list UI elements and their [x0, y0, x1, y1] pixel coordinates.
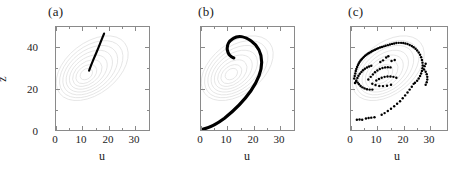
x-tick-minor-5: [214, 128, 215, 130]
x-tick-major-20: [109, 126, 110, 130]
panel-a-x-tick-label-20: 20: [103, 134, 114, 145]
x-tick-top-5: [69, 27, 70, 29]
y-tick-major-20: [201, 89, 205, 90]
y-tick-minor-30: [56, 68, 58, 69]
panel-c-tag: (c): [348, 5, 363, 18]
x-tick-major-0: [201, 126, 202, 130]
panel-a-x-tick-label-10: 10: [76, 134, 87, 145]
x-tick-top-15: [96, 27, 97, 29]
panel-a-plot-area: [55, 26, 150, 131]
panel-c-plot-area: [350, 26, 448, 131]
x-tick-major-0: [56, 126, 57, 130]
x-tick-top-5: [364, 27, 365, 29]
x-tick-top-0: [56, 27, 57, 31]
x-tick-minor-25: [267, 128, 268, 130]
x-tick-top-20: [404, 27, 405, 31]
panel-b-trajectory: [201, 27, 294, 130]
x-tick-major-30: [280, 126, 281, 130]
figure-three-panel-phase-plots: z 0 20 40 (a): [0, 0, 466, 178]
panel-c-x-tick-label-10: 10: [371, 134, 382, 145]
x-tick-minor-25: [122, 128, 123, 130]
y-tick-right-40: [145, 47, 149, 48]
panel-b-plot-area: [200, 26, 295, 131]
x-tick-top-10: [227, 27, 228, 31]
panel-c-x-tick-label-30: 30: [424, 134, 435, 145]
panel-a-x-tick-label-30: 30: [129, 134, 140, 145]
x-tick-top-20: [254, 27, 255, 31]
y-tick-right-30: [147, 68, 149, 69]
x-tick-top-20: [109, 27, 110, 31]
y-tick-major-40: [351, 47, 355, 48]
x-tick-major-30: [430, 126, 431, 130]
x-tick-top-10: [82, 27, 83, 31]
panel-c-x-axis-title: u: [394, 150, 400, 162]
x-tick-top-25: [417, 27, 418, 29]
x-tick-top-10: [377, 27, 378, 31]
x-tick-major-0: [351, 126, 352, 130]
panel-b-tag: (b): [198, 5, 214, 18]
x-tick-major-10: [82, 126, 83, 130]
y-tick-right-10: [147, 110, 149, 111]
panel-b-x-tick-label-0: 0: [197, 134, 203, 145]
x-tick-top-0: [201, 27, 202, 31]
x-tick-minor-5: [364, 128, 365, 130]
panel-c-x-tick-label-0: 0: [347, 134, 353, 145]
panel-a-trajectory: [56, 27, 149, 130]
y-tick-right-10: [292, 110, 294, 111]
x-tick-top-25: [267, 27, 268, 29]
panel-b-x-axis-title: u: [244, 150, 250, 162]
x-tick-top-15: [241, 27, 242, 29]
x-tick-major-20: [254, 126, 255, 130]
x-tick-top-0: [351, 27, 352, 31]
x-tick-major-20: [404, 126, 405, 130]
x-tick-top-5: [214, 27, 215, 29]
panel-c-scatter-points: [351, 27, 447, 130]
y-tick-right-10: [445, 110, 447, 111]
y-tick-major-40: [56, 47, 60, 48]
x-tick-top-25: [122, 27, 123, 29]
y-tick-minor-30: [351, 68, 353, 69]
y-tick-right-30: [292, 68, 294, 69]
y-tick-right-20: [290, 89, 294, 90]
x-tick-major-10: [227, 126, 228, 130]
x-tick-top-15: [391, 27, 392, 29]
y-tick-major-20: [351, 89, 355, 90]
panel-a-tag: (a): [48, 5, 63, 18]
x-tick-top-30: [135, 27, 136, 31]
x-tick-minor-5: [69, 128, 70, 130]
panel-c-x-tick-label-20: 20: [398, 134, 409, 145]
x-tick-top-30: [280, 27, 281, 31]
x-tick-top-30: [430, 27, 431, 31]
panel-a: (a): [0, 0, 150, 178]
panel-b-x-tick-label-30: 30: [274, 134, 285, 145]
y-tick-right-30: [445, 68, 447, 69]
y-tick-right-20: [443, 89, 447, 90]
y-tick-right-20: [145, 89, 149, 90]
x-tick-minor-15: [391, 128, 392, 130]
panel-b-x-tick-label-10: 10: [221, 134, 232, 145]
y-tick-right-40: [443, 47, 447, 48]
y-tick-minor-10: [351, 110, 353, 111]
x-tick-major-10: [377, 126, 378, 130]
panel-b-x-tick-label-20: 20: [248, 134, 259, 145]
x-tick-major-30: [135, 126, 136, 130]
panel-b: (b): [150, 0, 300, 178]
y-tick-right-40: [290, 47, 294, 48]
panel-a-x-tick-label-0: 0: [52, 134, 58, 145]
y-tick-minor-30: [201, 68, 203, 69]
panel-c: (c): [300, 0, 450, 178]
panel-a-x-axis-title: u: [99, 150, 105, 162]
y-tick-major-40: [201, 47, 205, 48]
x-tick-minor-15: [241, 128, 242, 130]
y-tick-minor-10: [56, 110, 58, 111]
y-tick-major-20: [56, 89, 60, 90]
y-tick-minor-10: [201, 110, 203, 111]
x-tick-minor-25: [417, 128, 418, 130]
x-tick-minor-15: [96, 128, 97, 130]
